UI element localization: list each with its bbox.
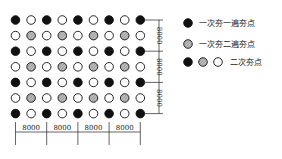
white-tamping-point-icon	[58, 47, 67, 56]
hatched-tamping-point-icon	[184, 40, 193, 49]
white-tamping-point-icon	[42, 31, 51, 40]
vertical-dimension-label: 8000	[155, 27, 163, 45]
white-tamping-point-icon	[58, 109, 67, 118]
white-tamping-point-icon	[58, 16, 67, 25]
hatched-tamping-point-icon	[120, 63, 129, 72]
white-tamping-point-icon	[105, 31, 114, 40]
vertical-dimension-label: 8000	[155, 89, 163, 107]
white-tamping-point-icon	[11, 94, 20, 103]
legend-label: 二次夯点	[230, 57, 262, 67]
black-tamping-point-icon	[42, 16, 51, 25]
white-tamping-point-icon	[136, 63, 145, 72]
white-tamping-point-icon	[120, 78, 129, 87]
white-tamping-point-icon	[58, 78, 67, 87]
hatched-tamping-point-icon	[120, 94, 129, 103]
black-tamping-point-icon	[105, 16, 114, 25]
white-tamping-point-icon	[42, 63, 51, 72]
black-tamping-point-icon	[184, 58, 193, 67]
black-tamping-point-icon	[42, 109, 51, 118]
horizontal-dimension-label: 8000	[85, 124, 103, 132]
white-tamping-point-icon	[11, 31, 20, 40]
black-tamping-point-icon	[136, 16, 145, 25]
hatched-tamping-point-icon	[27, 63, 36, 72]
white-tamping-point-icon	[89, 78, 98, 87]
white-tamping-point-icon	[27, 109, 36, 118]
hatched-tamping-point-icon	[120, 31, 129, 40]
white-tamping-point-icon	[27, 16, 36, 25]
black-tamping-point-icon	[105, 78, 114, 87]
white-tamping-point-icon	[27, 47, 36, 56]
hatched-tamping-point-icon	[58, 31, 67, 40]
black-tamping-point-icon	[74, 109, 83, 118]
white-tamping-point-icon	[89, 16, 98, 25]
black-tamping-point-icon	[105, 47, 114, 56]
hatched-tamping-point-icon	[89, 31, 98, 40]
white-tamping-point-icon	[74, 31, 83, 40]
black-tamping-point-icon	[105, 109, 114, 118]
hatched-tamping-point-icon	[89, 94, 98, 103]
black-tamping-point-icon	[11, 47, 20, 56]
black-tamping-point-icon	[136, 47, 145, 56]
horizontal-dimension-label: 8000	[53, 124, 71, 132]
black-tamping-point-icon	[136, 109, 145, 118]
white-tamping-point-icon	[136, 31, 145, 40]
black-tamping-point-icon	[136, 78, 145, 87]
white-tamping-point-icon	[214, 58, 223, 67]
horizontal-dimension-label: 8000	[116, 124, 134, 132]
black-tamping-point-icon	[11, 78, 20, 87]
white-tamping-point-icon	[74, 94, 83, 103]
hatched-tamping-point-icon	[27, 31, 36, 40]
white-tamping-point-icon	[11, 63, 20, 72]
hatched-tamping-point-icon	[89, 63, 98, 72]
white-tamping-point-icon	[120, 47, 129, 56]
vertical-dimension-label: 8000	[155, 58, 163, 76]
black-tamping-point-icon	[74, 16, 83, 25]
white-tamping-point-icon	[89, 109, 98, 118]
hatched-tamping-point-icon	[58, 94, 67, 103]
white-tamping-point-icon	[105, 63, 114, 72]
black-tamping-point-icon	[74, 47, 83, 56]
legend-label: 一次夯一遍夯点	[199, 18, 255, 28]
white-tamping-point-icon	[105, 94, 114, 103]
black-tamping-point-icon	[11, 109, 20, 118]
white-tamping-point-icon	[42, 94, 51, 103]
black-tamping-point-icon	[74, 78, 83, 87]
black-tamping-point-icon	[11, 16, 20, 25]
white-tamping-point-icon	[89, 47, 98, 56]
white-tamping-point-icon	[136, 94, 145, 103]
black-tamping-point-icon	[42, 78, 51, 87]
tamping-point-grid	[11, 16, 144, 118]
white-tamping-point-icon	[74, 63, 83, 72]
black-tamping-point-icon	[42, 47, 51, 56]
black-tamping-point-icon	[184, 19, 193, 28]
white-tamping-point-icon	[120, 109, 129, 118]
legend: 一次夯一遍夯点一次夯二遍夯点二次夯点	[184, 18, 262, 67]
horizontal-dimension-label: 8000	[22, 124, 40, 132]
hatched-tamping-point-icon	[27, 94, 36, 103]
hatched-tamping-point-icon	[199, 58, 208, 67]
white-tamping-point-icon	[120, 16, 129, 25]
white-tamping-point-icon	[27, 78, 36, 87]
tamping-layout-diagram: 8000800080008000800080008000 一次夯一遍夯点一次夯二…	[0, 0, 282, 159]
legend-label: 一次夯二遍夯点	[199, 39, 255, 49]
hatched-tamping-point-icon	[58, 63, 67, 72]
